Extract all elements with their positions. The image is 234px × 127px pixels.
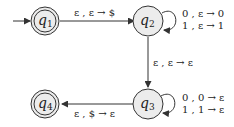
edge-label-q1-q2: ε , ε → $ — [74, 7, 115, 18]
pda-diagram: ε , ε → $ 0 , ε → 0 1 , ε → 1 ε , ε → ε … — [0, 0, 234, 127]
state-q4: q4 — [31, 90, 59, 118]
state-q1: q1 — [31, 7, 59, 35]
edge-label-q2-loop-1: 0 , ε → 0 — [182, 8, 224, 19]
edge-label-q3-q4: ε , $ → ε — [74, 108, 115, 119]
state-q2: q2 — [133, 6, 163, 36]
edge-label-q3-loop-2: 1 , 1 → ε — [182, 104, 224, 115]
edge-label-q2-loop-2: 1 , ε → 1 — [182, 20, 224, 31]
edge-label-q2-q3: ε , ε → ε — [153, 57, 193, 68]
edge-q2-loop — [162, 11, 176, 30]
edge-label-q3-loop-1: 0 , 0 → ε — [182, 92, 224, 103]
state-q3: q3 — [133, 89, 163, 119]
